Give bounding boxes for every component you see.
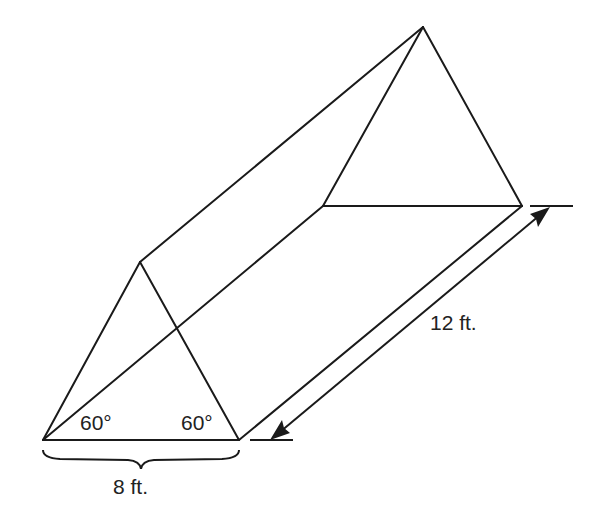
dimension-line [280, 215, 540, 432]
back-left-edge [323, 27, 423, 206]
back-face [323, 27, 522, 206]
lateral-edges [43, 27, 522, 440]
triangular-prism-diagram: 12 ft. 8 ft. 60° 60° [0, 0, 597, 507]
arrowhead-top-icon [530, 207, 550, 227]
ridge-edge [140, 27, 423, 262]
width-dimension: 8 ft. [43, 450, 239, 498]
length-dimension: 12 ft. [250, 206, 573, 440]
brace-icon [43, 450, 239, 469]
arrowhead-bottom-icon [270, 420, 290, 440]
back-right-edge [423, 27, 522, 206]
angle-label-right: 60° [181, 411, 213, 434]
angle-label-left: 60° [80, 411, 112, 434]
width-label: 8 ft. [113, 475, 148, 498]
length-label: 12 ft. [430, 311, 477, 334]
